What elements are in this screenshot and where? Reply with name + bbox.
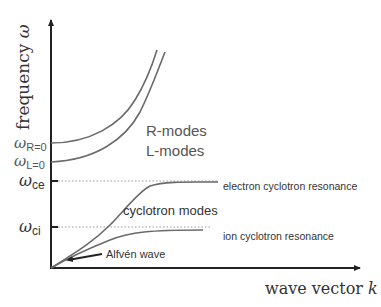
r-modes-label: R-modes [146, 122, 207, 139]
l-modes-label: L-modes [146, 142, 204, 159]
label-omega-R0: ωR=0 [14, 134, 47, 153]
electron-resonance-label: electron cyclotron resonance [223, 180, 357, 192]
label-omega-L0: ωL=0 [14, 152, 45, 171]
ion-resonance-label: ion cyclotron resonance [223, 230, 334, 242]
label-omega-ce: ωce [19, 171, 45, 192]
cyclotron-modes-label: cyclotron modes [123, 203, 218, 218]
label-omega-ci: ωci [19, 217, 41, 238]
alfven-wave-label: Alfvén wave [106, 248, 165, 260]
y-axis-label: frequency ω [13, 24, 33, 130]
x-axis-label: wave vector k [265, 279, 378, 298]
dispersion-diagram: frequency ω wave vector k ωR=0 ωL=0 ωce … [0, 0, 381, 307]
r-mode-curve [51, 50, 157, 143]
